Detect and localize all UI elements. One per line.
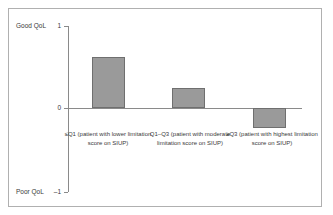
category-label-q3-highest: ≥Q3 (patient with highest limitation sco… xyxy=(222,130,322,147)
bar-q1-q3-moderate xyxy=(172,88,205,109)
y-tick-bottom xyxy=(64,192,68,193)
y-tick-label-top: 1 xyxy=(47,23,61,30)
good-qol-label: Good QoL xyxy=(16,23,46,30)
plot-area: 1 0 –1 Good QoL Poor QoL ≤Q1 (patient wi… xyxy=(0,0,333,215)
poor-qol-label: Poor QoL xyxy=(16,189,44,196)
figure-container: 1 0 –1 Good QoL Poor QoL ≤Q1 (patient wi… xyxy=(0,0,333,215)
y-tick-label-bottom: –1 xyxy=(47,189,61,196)
y-tick-label-zero: 0 xyxy=(47,105,61,112)
y-axis-line xyxy=(68,26,69,192)
bar-q3-highest xyxy=(253,108,286,128)
bar-q1-lower xyxy=(92,57,125,108)
y-tick-top xyxy=(64,26,68,27)
y-tick-zero xyxy=(64,108,68,109)
